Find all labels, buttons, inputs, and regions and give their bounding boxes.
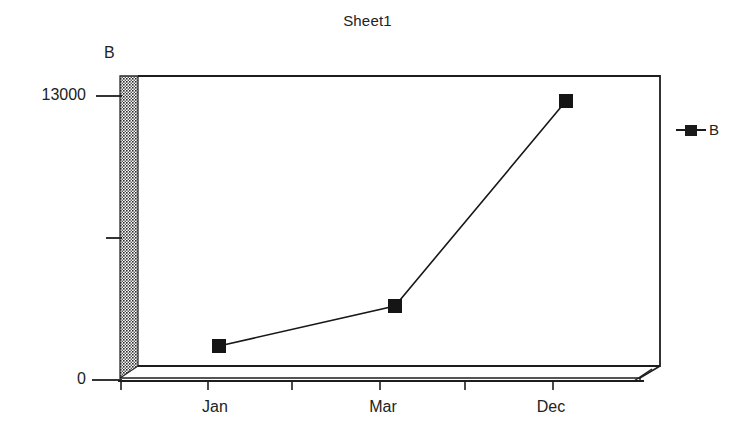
plot-floor-3d bbox=[120, 366, 660, 378]
chart-container: Sheet1 B 13000 0 Jan Mar Dec bbox=[0, 0, 755, 445]
data-point-marker-jan bbox=[212, 339, 226, 353]
data-point-marker-dec bbox=[559, 94, 573, 108]
x-axis-end-arrowhead bbox=[634, 369, 652, 381]
legend-marker-b bbox=[676, 123, 706, 137]
legend-label-b: B bbox=[709, 122, 719, 137]
x-axis-ticks bbox=[121, 381, 553, 390]
legend-square-icon bbox=[685, 125, 697, 136]
data-point-marker-mar bbox=[388, 299, 402, 313]
plot-area bbox=[0, 0, 755, 445]
y-axis-ticks bbox=[92, 96, 122, 380]
axis-wall-3d bbox=[120, 76, 138, 378]
chart-legend: B bbox=[676, 122, 719, 137]
plot-back-panel bbox=[138, 76, 660, 366]
